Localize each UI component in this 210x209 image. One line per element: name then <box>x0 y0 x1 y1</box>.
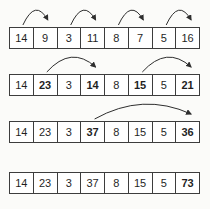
array-cell: 8 <box>105 28 129 48</box>
sum-arrow <box>166 10 191 25</box>
arrow-layer <box>9 52 200 74</box>
array-row: 1423337815573 <box>9 150 200 194</box>
sum-arrow <box>71 10 96 25</box>
array-boxes: 1423337815536 <box>9 121 200 143</box>
array-cell: 21 <box>176 75 199 95</box>
array-cell: 8 <box>105 75 129 95</box>
array-row: 1423337815536 <box>9 99 200 143</box>
array-cell: 23 <box>34 173 58 193</box>
array-cell: 3 <box>58 28 82 48</box>
array-cell: 23 <box>34 122 58 142</box>
arrow-layer <box>9 99 200 121</box>
array-cell: 5 <box>153 75 177 95</box>
array-cell: 8 <box>105 173 129 193</box>
sum-arrow <box>47 57 96 72</box>
sum-arrow <box>95 104 192 119</box>
array-cell: 14 <box>10 122 34 142</box>
arrow-layer <box>9 5 200 27</box>
array-cell: 5 <box>153 122 177 142</box>
array-cell: 5 <box>153 28 177 48</box>
parallel-scan-diagram: 1493118751614233148155211423337815536142… <box>9 0 200 209</box>
array-cell: 15 <box>129 173 153 193</box>
array-cell: 16 <box>176 28 199 48</box>
array-cell: 7 <box>129 28 153 48</box>
array-row: 1423314815521 <box>9 52 200 96</box>
sum-arrow <box>23 10 48 25</box>
array-cell: 14 <box>10 28 34 48</box>
array-cell: 3 <box>58 122 82 142</box>
array-cell: 37 <box>81 173 105 193</box>
array-cell: 15 <box>129 122 153 142</box>
array-cell: 8 <box>105 122 129 142</box>
array-cell: 23 <box>34 75 58 95</box>
array-boxes: 14931187516 <box>9 27 200 49</box>
array-boxes: 1423337815573 <box>9 172 200 194</box>
array-cell: 9 <box>34 28 58 48</box>
array-cell: 5 <box>153 173 177 193</box>
array-cell: 73 <box>176 173 199 193</box>
array-cell: 14 <box>81 75 105 95</box>
array-boxes: 1423314815521 <box>9 74 200 96</box>
arrow-layer <box>9 150 200 172</box>
array-row: 14931187516 <box>9 5 200 49</box>
array-cell: 14 <box>10 173 34 193</box>
array-cell: 3 <box>58 173 82 193</box>
array-cell: 37 <box>81 122 105 142</box>
array-cell: 15 <box>129 75 153 95</box>
array-cell: 36 <box>176 122 199 142</box>
sum-arrow <box>142 57 191 72</box>
sum-arrow <box>118 10 143 25</box>
array-cell: 14 <box>10 75 34 95</box>
array-cell: 3 <box>58 75 82 95</box>
array-cell: 11 <box>81 28 105 48</box>
